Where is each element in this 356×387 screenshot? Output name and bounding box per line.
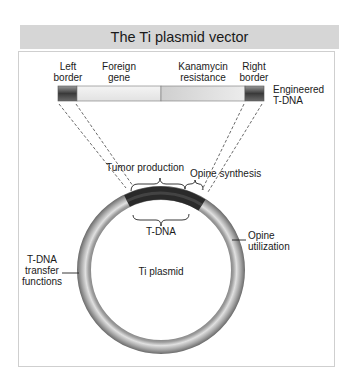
ti-plasmid-label: Ti plasmid: [130, 266, 192, 277]
tumor-production-label: Tumor production: [106, 162, 184, 173]
right-border-label: Right border: [237, 61, 271, 83]
left-border-segment: [58, 86, 77, 101]
opine-synthesis-label: Opine synthesis: [190, 168, 261, 179]
engineered-tdna-label: Engineered T-DNA: [273, 84, 325, 106]
foreign-gene-label: Foreign gene: [96, 61, 142, 83]
tdna-label: T-DNA: [146, 226, 176, 237]
kanamycin-label: Kanamycin resistance: [172, 61, 234, 83]
foreign-gene-segment: [77, 86, 161, 101]
right-border-segment: [245, 86, 264, 101]
plasmid-diagram: [0, 0, 356, 387]
kanamycin-segment: [161, 86, 245, 101]
engineered-tdna-bar: [58, 86, 264, 101]
left-border-label: Left border: [50, 61, 86, 83]
transfer-functions-label: T-DNA transfer functions: [22, 254, 62, 287]
opine-utilization-label: Opine utilization: [248, 230, 290, 252]
